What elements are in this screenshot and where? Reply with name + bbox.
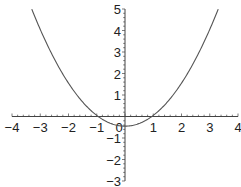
chart-plot: −4−3−2−101234−3−2−112345 [0,0,241,187]
x-tick-label: −1 [89,120,104,135]
y-tick-label: 3 [114,45,121,60]
x-tick-label: 2 [178,120,185,135]
tick-marks [12,9,238,181]
x-tick-label: 4 [234,120,241,135]
x-tick-label: −3 [33,120,48,135]
y-tick-label: 1 [114,88,121,103]
y-tick-label: −1 [106,131,121,146]
y-tick-label: −2 [106,153,121,168]
x-tick-label: 3 [206,120,213,135]
x-tick-label: −2 [61,120,76,135]
x-tick-label: −4 [5,120,20,135]
y-tick-label: −3 [106,174,121,187]
y-tick-label: 2 [114,67,121,82]
y-tick-label: 4 [114,24,121,39]
x-tick-label: 1 [150,120,157,135]
y-tick-label: 5 [114,2,121,17]
